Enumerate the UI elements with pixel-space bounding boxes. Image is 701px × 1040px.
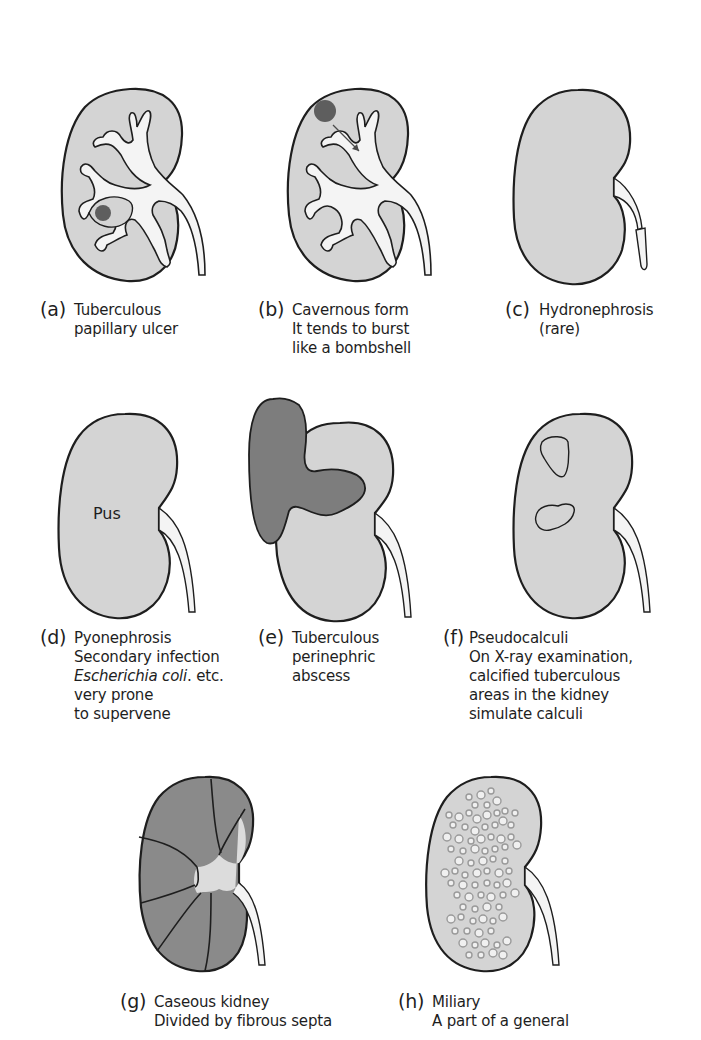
caption-h: (h) Miliary A part of a general [398,993,569,1031]
kidney-f-illustration [510,412,670,622]
panel-a-tuberculous-papillary-ulcer [55,85,215,285]
panel-e-perinephric-abscess [245,395,445,625]
caption-g: (g) Caseous kidney Divided by fibrous se… [120,993,332,1031]
kidney-b-illustration [285,85,445,285]
panel-d-pyonephrosis: Pus [55,412,215,622]
pus-label: Pus [93,504,121,523]
caption-a: (a) Tuberculous papillary ulcer [40,301,178,339]
kidney-a-illustration [55,85,215,285]
panel-g-caseous-kidney [135,775,295,975]
panel-h-miliary [425,775,585,975]
kidney-d-illustration [55,412,215,622]
ulcer-lesion [95,205,111,221]
caption-b: (b) Cavernous form It tends to burst lik… [258,301,411,358]
cavernous-lesion [314,100,336,122]
caption-d: (d) Pyonephrosis Secondary infection Esc… [40,629,224,724]
panel-b-cavernous-form [285,85,445,285]
caption-e: (e) Tuberculous perinephric abscess [258,629,379,686]
kidney-c-illustration [510,88,670,288]
caption-d-organism: Escherichia coli. etc. [40,667,224,686]
stricture-ureter [636,228,647,270]
kidney-h-illustration [425,775,585,975]
kidney-g-illustration [135,775,295,975]
panel-c-hydronephrosis [510,88,670,288]
caption-c: (c) Hydronephrosis (rare) [505,301,653,339]
panel-f-pseudocalculi [510,412,670,622]
caption-f: (f) Pseudocalculi On X-ray examination, … [443,629,633,724]
kidney-e-illustration [245,395,445,625]
